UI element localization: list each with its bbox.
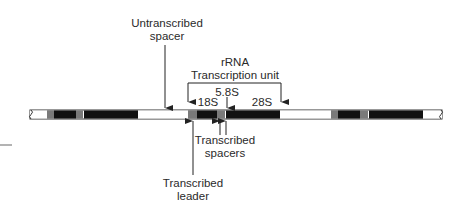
untranscribed-spacer-label: Untranscribed spacer [117,17,217,43]
s18-label: 18S [195,96,221,109]
label-line: rRNA [185,56,285,69]
label-line: Transcribed [151,177,235,190]
transcription-unit-label: rRNA Transcription unit [185,56,285,82]
transcribed-leader-label: Transcribed leader [151,177,235,203]
segment-spacer [47,111,54,119]
segment-coding [226,111,280,119]
segment-coding [54,111,76,119]
transcribed-spacers-label: Transcribed spacers [183,134,267,160]
s28-label: 28S [248,96,276,109]
rdna-diagram: Untranscribed spacer rRNA Transcription … [0,0,451,211]
label-line: leader [151,190,235,203]
strand-segments [30,111,442,119]
label-line: spacer [117,30,217,43]
segment-untranscribed [280,111,331,119]
segment-spacer [188,111,197,119]
segment-coding [338,111,360,119]
segment-spacer [217,111,225,119]
segment-spacer [331,111,338,119]
segment-coding [84,111,138,119]
segment-spacer [76,111,83,119]
segment-coding [369,111,423,119]
segment-coding [197,111,217,119]
segment-spacer [360,111,368,119]
label-line: Transcription unit [185,69,285,82]
label-line: Untranscribed [117,17,217,30]
label-line: spacers [183,147,267,160]
label-line: Transcribed [183,134,267,147]
segment-untranscribed [138,111,188,119]
